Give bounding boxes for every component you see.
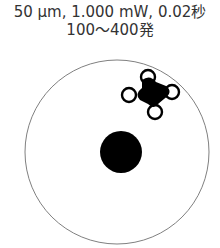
spot-diagram xyxy=(0,0,220,248)
ring-bottom xyxy=(148,105,162,119)
ring-left xyxy=(122,88,136,102)
center-spot xyxy=(100,131,142,173)
